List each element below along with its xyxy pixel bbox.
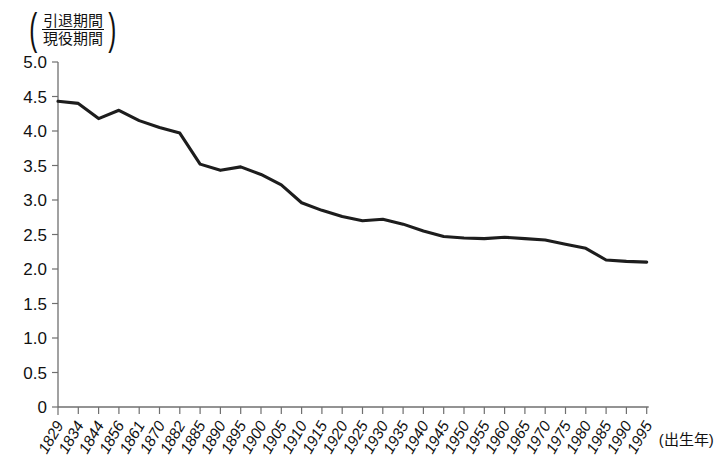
y-tick-label: 0 [38, 398, 47, 417]
y-tick-label: 4.0 [23, 122, 47, 141]
y-tick-label: 2.0 [23, 260, 47, 279]
data-series-line [58, 101, 647, 262]
y-axis-ticks: 5.04.54.03.53.02.52.01.51.00.50 [23, 53, 58, 417]
line-chart-plot: 5.04.54.03.53.02.52.01.51.00.50 18291834… [0, 0, 723, 472]
y-tick-label: 4.5 [23, 88, 47, 107]
y-tick-label: 0.5 [23, 364, 47, 383]
chart-container: ( 引退期間 現役期間 ) 5.04.54.03.53.02.52.01.51.… [0, 0, 723, 472]
y-tick-label: 1.5 [23, 295, 47, 314]
y-tick-label: 5.0 [23, 53, 47, 72]
y-tick-label: 3.5 [23, 157, 47, 176]
y-tick-label: 2.5 [23, 226, 47, 245]
y-tick-label: 3.0 [23, 191, 47, 210]
x-axis-caption: (出生年) [659, 431, 714, 448]
x-axis-ticks: 1829183418441856186118701882188518901895… [35, 407, 656, 456]
y-tick-label: 1.0 [23, 329, 47, 348]
